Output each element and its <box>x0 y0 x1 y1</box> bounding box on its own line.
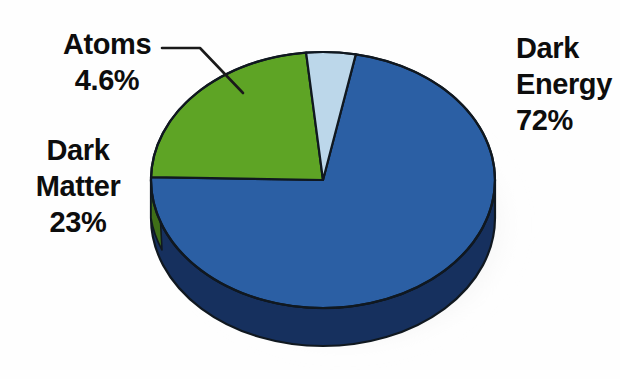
dark-energy-label-name-2: Energy <box>516 67 620 103</box>
slice-label-dark-matter: Dark Matter 23% <box>14 133 142 241</box>
slice-label-atoms: Atoms 4.6% <box>48 27 166 99</box>
dark-energy-label-name-1: Dark <box>516 31 620 67</box>
pie-chart-figure: Atoms 4.6% Dark Matter 23% Dark Energy 7… <box>0 0 620 379</box>
atoms-label-name: Atoms <box>48 27 166 63</box>
atoms-label-value: 4.6% <box>48 63 166 99</box>
dark-matter-label-name-2: Matter <box>14 169 142 205</box>
pie-slice-dark-matter <box>151 53 323 180</box>
dark-matter-label-name-1: Dark <box>14 133 142 169</box>
slice-label-dark-energy: Dark Energy 72% <box>516 31 620 139</box>
dark-energy-label-value: 72% <box>516 103 620 139</box>
dark-matter-label-value: 23% <box>14 205 142 241</box>
